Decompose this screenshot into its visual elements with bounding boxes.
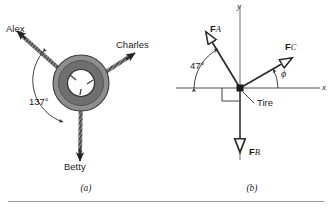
label-angle-47: 47° <box>190 61 204 71</box>
vector-fa <box>206 32 240 88</box>
label-axis-y: y <box>237 2 241 11</box>
caption-panel-a: (a) <box>0 183 172 193</box>
label-axis-x: x <box>322 83 326 92</box>
right-angle-marker <box>222 88 239 101</box>
panel-a: Alex Charles Betty 137° (a) <box>0 0 172 195</box>
angle-arc-phi <box>273 69 278 88</box>
tire-object <box>53 55 109 111</box>
panel-a-graphics <box>0 0 172 195</box>
label-tire: Tire <box>257 98 273 108</box>
panel-b-graphics <box>172 0 332 195</box>
caption-panel-b: (b) <box>172 183 332 193</box>
origin-dot <box>237 85 244 92</box>
label-alex: Alex <box>6 24 24 34</box>
label-force-fa: FA <box>210 24 221 35</box>
label-force-fc-subscript: C <box>291 42 297 52</box>
label-force-fa-subscript: A <box>216 24 221 34</box>
label-force-fc: FC <box>285 42 296 53</box>
label-charles: Charles <box>116 40 149 50</box>
label-force-fb: FB <box>249 147 260 158</box>
tire-leader-line <box>243 92 254 103</box>
label-angle-137: 137° <box>29 97 49 107</box>
figure-bottom-rule <box>8 201 324 202</box>
physics-figure: Alex Charles Betty 137° (a) <box>0 0 332 210</box>
label-force-fb-subscript: B <box>255 147 260 157</box>
label-angle-phi: ϕ <box>281 69 286 79</box>
panel-b: y x FA FC FB 47° ϕ Tire (b) <box>172 0 332 195</box>
label-betty: Betty <box>64 162 86 172</box>
